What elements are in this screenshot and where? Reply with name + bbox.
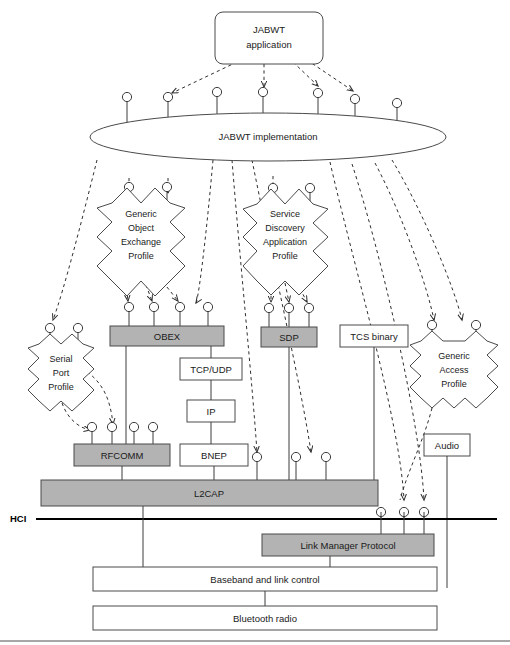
lollipop-rfcomm-3[interactable] bbox=[129, 422, 138, 444]
sdp-label: SDP bbox=[279, 332, 299, 343]
lollipop-rfcomm-4[interactable] bbox=[148, 422, 157, 444]
lollipop-l2cap-2[interactable] bbox=[291, 452, 300, 480]
lollipop-rfcomm-2[interactable] bbox=[107, 422, 116, 444]
lollipop-obex-2[interactable] bbox=[149, 302, 158, 326]
node-bluetooth-radio[interactable]: Bluetooth radio bbox=[93, 606, 437, 630]
node-generic-object-exchange-profile[interactable]: Generic Object Exchange Profile bbox=[97, 182, 185, 296]
lollipop-rfcomm-1[interactable] bbox=[87, 422, 96, 444]
diagram-canvas: JABWT application JABWT implementation G… bbox=[0, 0, 510, 645]
rfcomm-label: RFCOMM bbox=[101, 450, 144, 461]
node-sdp[interactable]: SDP bbox=[261, 327, 317, 347]
goep-label-line2: Object bbox=[128, 223, 155, 233]
lollipop-obex-1[interactable] bbox=[124, 302, 133, 326]
baseband-label: Baseband and link control bbox=[210, 574, 319, 585]
node-rfcomm[interactable]: RFCOMM bbox=[74, 444, 170, 466]
link-manager-protocol-label: Link Manager Protocol bbox=[300, 540, 395, 551]
bnep-label: BNEP bbox=[201, 450, 227, 461]
gap-label-line2: Access bbox=[439, 365, 469, 375]
node-ip[interactable]: IP bbox=[187, 400, 235, 422]
gap-label-line1: Generic bbox=[438, 351, 470, 361]
sdap-label-line4: Profile bbox=[272, 251, 298, 261]
tcp-udp-label: TCP/UDP bbox=[190, 364, 232, 375]
tcs-binary-label: TCS binary bbox=[350, 331, 398, 342]
l2cap-label: L2CAP bbox=[194, 488, 224, 499]
ip-label: IP bbox=[207, 406, 216, 417]
node-obex[interactable]: OBEX bbox=[110, 326, 224, 346]
gap-label-line3: Profile bbox=[441, 379, 467, 389]
sdap-label-line3: Application bbox=[263, 237, 307, 247]
spp-label-line2: Port bbox=[53, 368, 70, 378]
sdap-label-line1: Service bbox=[270, 209, 300, 219]
bluetooth-stack-diagram: JABWT application JABWT implementation G… bbox=[0, 0, 510, 645]
goep-label-line3: Exchange bbox=[121, 237, 161, 247]
node-baseband-link-control[interactable]: Baseband and link control bbox=[93, 567, 437, 591]
node-jabwt-implementation[interactable]: JABWT implementation bbox=[90, 113, 446, 161]
interface-lollipops-l2cap bbox=[252, 452, 330, 480]
lollipop-sdp-1[interactable] bbox=[264, 303, 273, 327]
interface-lollipops-rfcomm bbox=[87, 422, 157, 444]
bluetooth-radio-label: Bluetooth radio bbox=[233, 613, 297, 624]
jabwt-implementation-label: JABWT implementation bbox=[218, 131, 317, 142]
lollipop-obex-3[interactable] bbox=[175, 302, 184, 326]
goep-label-line4: Profile bbox=[128, 251, 154, 261]
lollipop-obex-4[interactable] bbox=[203, 302, 212, 326]
node-tcs-binary[interactable]: TCS binary bbox=[340, 325, 408, 347]
node-service-discovery-application-profile[interactable]: Service Discovery Application Profile bbox=[243, 183, 328, 295]
lollipop-sdp-3[interactable] bbox=[304, 303, 313, 327]
interface-lollipops-sdp bbox=[264, 303, 313, 327]
node-l2cap[interactable]: L2CAP bbox=[41, 480, 378, 506]
jabwt-application-label-line1: JABWT bbox=[253, 24, 285, 35]
lollipop-l2cap-3[interactable] bbox=[321, 452, 330, 480]
interface-lollipops-obex bbox=[124, 302, 212, 326]
obex-label: OBEX bbox=[154, 331, 181, 342]
lollipop-l2cap-1[interactable] bbox=[252, 452, 261, 480]
hci-label: HCI bbox=[10, 513, 26, 524]
spp-label-line3: Profile bbox=[48, 382, 74, 392]
node-bnep[interactable]: BNEP bbox=[180, 444, 248, 466]
audio-label: Audio bbox=[435, 440, 459, 451]
node-generic-access-profile[interactable]: Generic Access Profile bbox=[410, 320, 498, 408]
node-jabwt-application[interactable]: JABWT application bbox=[215, 12, 323, 64]
spp-label-line1: Serial bbox=[49, 354, 72, 364]
interface-lollipops-hci bbox=[376, 507, 428, 519]
node-audio[interactable]: Audio bbox=[424, 434, 470, 456]
sdap-label-line2: Discovery bbox=[265, 223, 305, 233]
node-tcp-udp[interactable]: TCP/UDP bbox=[180, 358, 242, 380]
goep-label-line1: Generic bbox=[125, 209, 157, 219]
node-link-manager-protocol[interactable]: Link Manager Protocol bbox=[262, 534, 434, 556]
node-serial-port-profile[interactable]: Serial Port Profile bbox=[28, 323, 94, 411]
lollipop-sdp-2[interactable] bbox=[284, 303, 293, 327]
jabwt-application-label-line2: application bbox=[246, 39, 291, 50]
